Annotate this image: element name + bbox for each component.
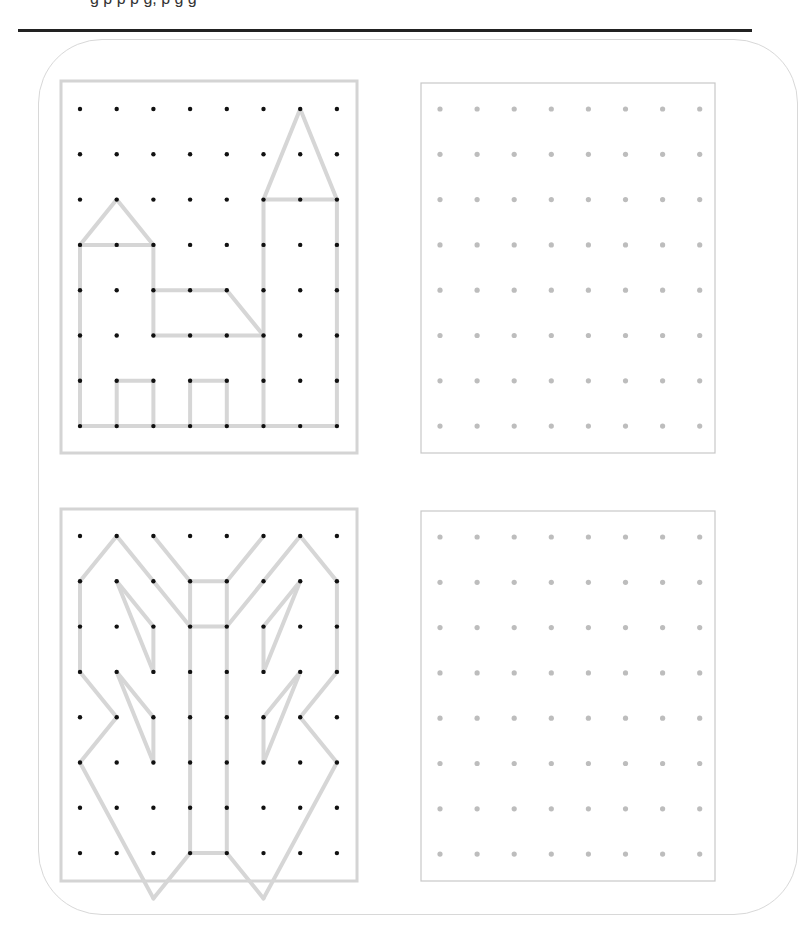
grid-dot (225, 243, 229, 247)
grid-dot (623, 580, 628, 585)
grid-dot (660, 378, 665, 383)
grid-dot (512, 716, 517, 721)
grid-dot (298, 624, 302, 628)
grid-dot (475, 625, 480, 630)
grid-dot (225, 333, 229, 337)
grid-dot (697, 197, 702, 202)
grid-dot (78, 760, 82, 764)
grid-dot (512, 106, 517, 111)
grid-dot (188, 715, 192, 719)
grid-dot (549, 106, 554, 111)
grid-dot (225, 851, 229, 855)
grid-dot (512, 197, 517, 202)
grid-dot (549, 378, 554, 383)
grid-dot (697, 852, 702, 857)
grid-dot (586, 806, 591, 811)
grid-dot (188, 579, 192, 583)
grid-dot (151, 579, 155, 583)
grid-dot (697, 761, 702, 766)
grid-dot (335, 107, 339, 111)
grid-dot (437, 806, 442, 811)
grid-dot (586, 625, 591, 630)
grid-dot (549, 534, 554, 539)
grid-dot (78, 379, 82, 383)
grid-dot (261, 288, 265, 292)
grid-dot (335, 670, 339, 674)
grid-dot (151, 760, 155, 764)
grid-dot (660, 761, 665, 766)
grid-dot (78, 534, 82, 538)
shape-line (300, 536, 337, 581)
grid-dot (475, 106, 480, 111)
grid-dot (623, 761, 628, 766)
grid-dot (261, 152, 265, 156)
grid-dot (512, 852, 517, 857)
shape-line (80, 672, 117, 717)
grid-dot (298, 107, 302, 111)
grid-dot (225, 379, 229, 383)
grid-dot (623, 716, 628, 721)
grid-dot (623, 806, 628, 811)
grid-dot (697, 242, 702, 247)
grid-dot (475, 378, 480, 383)
grid-dot (697, 424, 702, 429)
grid-dot (549, 152, 554, 157)
grid-dot (475, 152, 480, 157)
grid-dot (549, 242, 554, 247)
grid-dot (78, 197, 82, 201)
grid-dot (623, 288, 628, 293)
grid-dot (188, 152, 192, 156)
grid-dot (586, 288, 591, 293)
grid-dot (475, 806, 480, 811)
grid-dot (437, 424, 442, 429)
grid-dot (115, 424, 119, 428)
grid-dot (660, 333, 665, 338)
grid-dot (549, 625, 554, 630)
grid-dot (298, 152, 302, 156)
grid-dot (261, 670, 265, 674)
castle-blank-grid (421, 83, 715, 453)
grid-dot (586, 761, 591, 766)
grid-dot (115, 715, 119, 719)
grid-dot (335, 243, 339, 247)
grid-dot (512, 806, 517, 811)
grid-dot (335, 806, 339, 810)
grid-dot (660, 424, 665, 429)
grid-dot (549, 761, 554, 766)
shape-line (264, 763, 337, 899)
grid-dot (78, 579, 82, 583)
grid-dot (335, 760, 339, 764)
grid-dot (335, 715, 339, 719)
grid-dot (225, 424, 229, 428)
grid-frame (421, 83, 715, 453)
grid-dot (437, 333, 442, 338)
grid-dot (697, 106, 702, 111)
shape-line (153, 536, 190, 581)
shape-line (117, 672, 154, 763)
grid-dot (298, 379, 302, 383)
grid-dot (225, 624, 229, 628)
shape-line (227, 853, 264, 898)
grid-dot (188, 424, 192, 428)
shape-line (227, 536, 264, 581)
grid-dot (151, 670, 155, 674)
grid-dot (437, 716, 442, 721)
grid-dot (475, 333, 480, 338)
grid-dot (298, 806, 302, 810)
grid-dot (151, 197, 155, 201)
grid-dot (298, 424, 302, 428)
grid-dot (697, 152, 702, 157)
grid-dot (188, 670, 192, 674)
grid-dot (115, 760, 119, 764)
shape-line (80, 763, 153, 899)
grid-dot (586, 106, 591, 111)
grid-dot (151, 288, 155, 292)
grid-dot (115, 152, 119, 156)
grid-dot (335, 152, 339, 156)
grid-dot (623, 424, 628, 429)
shape-line (264, 672, 301, 717)
grid-dot (335, 333, 339, 337)
grid-dot (335, 424, 339, 428)
grid-dot (188, 107, 192, 111)
grid-dot (261, 424, 265, 428)
